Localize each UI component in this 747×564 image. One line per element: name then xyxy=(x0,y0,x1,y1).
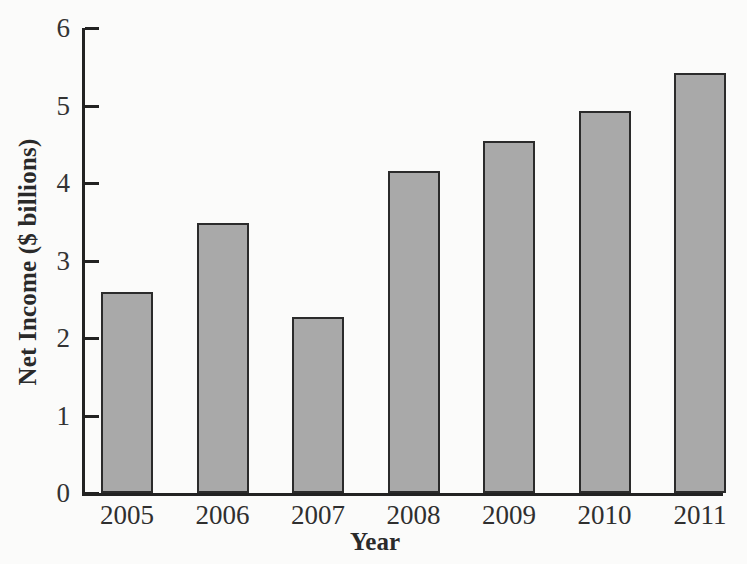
bar-2005 xyxy=(101,292,153,494)
y-axis-tick-label: 5 xyxy=(30,92,70,119)
y-axis-tick xyxy=(85,27,99,30)
y-axis-tick xyxy=(85,260,99,263)
bar-2007 xyxy=(292,317,344,493)
bar-2011 xyxy=(674,73,726,493)
plot-area: 0123456 2005200620072008200920102011 xyxy=(82,28,723,496)
bar-chart: Net Income ($ billions) 0123456 20052006… xyxy=(0,0,747,564)
x-axis-line xyxy=(82,493,723,496)
bar-2009 xyxy=(483,141,535,493)
y-axis-tick-label: 1 xyxy=(30,402,70,429)
y-axis-tick xyxy=(85,105,99,108)
y-axis-tick xyxy=(85,337,99,340)
bar-2008 xyxy=(388,171,440,493)
x-axis-tick-label: 2011 xyxy=(640,502,747,529)
y-axis-tick-label: 4 xyxy=(30,170,70,197)
x-axis-title: Year xyxy=(313,528,437,556)
bar-2010 xyxy=(579,111,631,493)
bar-2006 xyxy=(197,223,249,493)
y-axis-tick-label: 6 xyxy=(30,15,70,42)
y-axis-tick-label: 0 xyxy=(30,480,70,507)
y-axis-tick xyxy=(85,415,99,418)
y-axis-tick-label: 3 xyxy=(30,247,70,274)
y-axis-tick xyxy=(85,182,99,185)
y-axis-tick xyxy=(85,492,99,495)
y-axis-tick-label: 2 xyxy=(30,325,70,352)
